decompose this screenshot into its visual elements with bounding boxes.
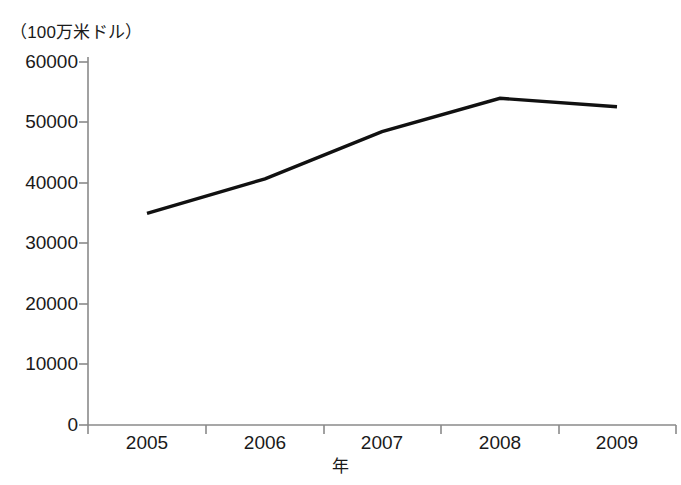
plot-area	[0, 0, 681, 485]
line-chart: （100万米ドル） 60000 50000 40000 30000 20000 …	[0, 0, 681, 485]
x-tick-label-2005: 2005	[126, 432, 168, 454]
data-line-series-1	[147, 98, 617, 213]
x-tick-label-2007: 2007	[361, 432, 403, 454]
x-tick-label-2008: 2008	[479, 432, 521, 454]
y-tick-marks	[79, 62, 88, 425]
x-tick-label-2009: 2009	[596, 432, 638, 454]
x-tick-label-2006: 2006	[244, 432, 286, 454]
x-axis-title: 年	[0, 452, 681, 477]
